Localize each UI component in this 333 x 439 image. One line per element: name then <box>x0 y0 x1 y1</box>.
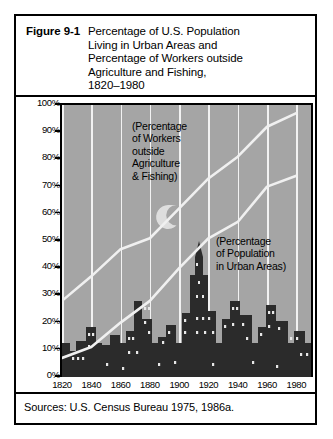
figure-card: Figure 9-1 Percentage of U.S. Population… <box>14 14 317 425</box>
chart-region: 0%10%20%30%40%50%60%70%80%90%100% <box>16 97 315 394</box>
figure-footer: Sources: U.S. Census Bureau 1975, 1986a. <box>16 392 315 423</box>
y-tick-label: 30% <box>20 287 60 298</box>
figure-title-block: Figure 9-1 Percentage of U.S. Population… <box>16 16 315 97</box>
x-tick-label: 1980 <box>279 379 313 390</box>
y-tick-label: 20% <box>20 315 60 326</box>
y-tick-label: 40% <box>20 260 60 271</box>
figure-number-label: Figure 9-1 <box>26 25 80 37</box>
source-note: Sources: U.S. Census Bureau 1975, 1986a. <box>24 401 234 413</box>
y-tick-label: 80% <box>20 151 60 162</box>
y-tick-label: 100% <box>20 97 60 108</box>
y-tick-label: 90% <box>20 124 60 135</box>
y-tick-label: 70% <box>20 179 60 190</box>
annotation-urban: (Percentage of Population in Urban Areas… <box>216 235 286 272</box>
y-tick-label: 60% <box>20 206 60 217</box>
annotation-workers: (Percentage of Workers outside Agricultu… <box>132 120 187 182</box>
y-tick-label: 50% <box>20 233 60 244</box>
figure-title-text: Percentage of U.S. Population Living in … <box>88 25 309 93</box>
y-axis-labels: 0%10%20%30%40%50%60%70%80%90%100% <box>16 97 60 387</box>
y-tick-label: 10% <box>20 342 60 353</box>
